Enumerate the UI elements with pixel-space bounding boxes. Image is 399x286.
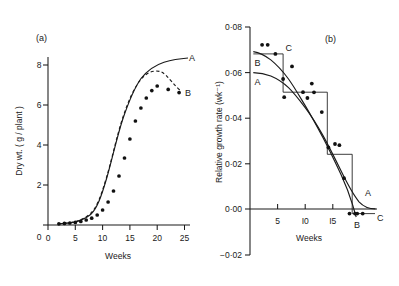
panel-a-x-ticklabels: 0 5 10 15 20 25 bbox=[46, 233, 190, 243]
panel-a-yticklabel-3: 6 bbox=[37, 100, 42, 110]
panel-a-curvelabel-A: A bbox=[189, 53, 195, 63]
panel-b-datapoints bbox=[260, 43, 364, 216]
panel-b-yticklabel-neg002: −0·02 bbox=[220, 250, 242, 260]
panel-a-xlabel: Weeks bbox=[105, 251, 131, 261]
panel-a-xticklabel-1: 5 bbox=[73, 233, 78, 243]
panel-a-xticklabel-3: 15 bbox=[125, 233, 135, 243]
panel-b-yticklabel-004: 0·04 bbox=[225, 113, 242, 123]
panel-b-plot: (b) 0·08 0·06 0·04 0·02 0·00 −0·02 bbox=[199, 0, 399, 286]
panel-a-yticklabel-1: 2 bbox=[37, 180, 42, 190]
panel-b-x-ticks bbox=[278, 204, 333, 209]
panel-a-yticklabel-4: 8 bbox=[37, 60, 42, 70]
panel-b: (b) 0·08 0·06 0·04 0·02 0·00 −0·02 bbox=[199, 0, 399, 286]
panel-b-yticklabel-008: 0·08 bbox=[225, 22, 242, 32]
panel-b-label: (b) bbox=[325, 34, 336, 44]
figure-container: (a) 0 2 4 6 8 bbox=[0, 0, 399, 286]
panel-b-yticklabel-002: 0·02 bbox=[225, 159, 242, 169]
panel-b-curvelabel-A-top: A bbox=[255, 77, 261, 87]
panel-b-curvelabel-A-right: A bbox=[365, 188, 371, 198]
panel-b-curvelabel-B-top: B bbox=[255, 58, 261, 68]
panel-b-xticklabel-5: 5 bbox=[275, 216, 280, 226]
panel-a-curve-A bbox=[59, 58, 188, 224]
panel-b-yticklabel-006: 0·06 bbox=[225, 68, 242, 78]
panel-a-yticklabel-0: 0 bbox=[37, 232, 42, 242]
panel-b-xticklabel-10: I0 bbox=[302, 216, 309, 226]
panel-a-yticklabel-2: 4 bbox=[37, 140, 42, 150]
panel-b-ylabel: Relative growth rate (wk⁻¹) bbox=[214, 81, 224, 183]
panel-a-curve-B bbox=[59, 71, 180, 224]
panel-a-y-ticklabels: 0 2 4 6 8 bbox=[37, 60, 42, 242]
panel-b-curvelabel-C-bottom: C bbox=[377, 213, 384, 223]
panel-a-xticklabel-0: 0 bbox=[46, 233, 51, 243]
panel-a-xticklabel-2: 10 bbox=[98, 233, 108, 243]
panel-b-x-ticklabels: 5 I0 I5 bbox=[275, 216, 336, 226]
panel-b-yticklabel-000: 0·00 bbox=[225, 204, 242, 214]
panel-a-xticklabel-5: 25 bbox=[180, 233, 190, 243]
panel-a-curvelabel-B: B bbox=[185, 88, 191, 98]
panel-b-xlabel: Weeks bbox=[296, 233, 322, 243]
panel-b-curvelabel-C-top: C bbox=[286, 43, 293, 53]
panel-b-curvelabel-B-bottom: B bbox=[354, 220, 360, 230]
panel-a-curves bbox=[59, 58, 188, 224]
panel-b-xticklabel-15: I5 bbox=[329, 216, 336, 226]
panel-a-x-ticks bbox=[48, 225, 185, 230]
panel-a-label: (a) bbox=[36, 33, 47, 43]
panel-a-xticklabel-4: 20 bbox=[152, 233, 162, 243]
panel-a-datapoints bbox=[57, 84, 181, 226]
panel-a-y-ticks bbox=[43, 65, 48, 225]
panel-a-plot: (a) 0 2 4 6 8 bbox=[0, 0, 200, 286]
panel-a-ylabel: Dry wt. ( g / plant ) bbox=[14, 106, 24, 176]
panel-b-y-ticks bbox=[245, 27, 250, 255]
panel-a: (a) 0 2 4 6 8 bbox=[0, 0, 200, 286]
panel-b-curve-B bbox=[253, 52, 356, 217]
panel-b-curve-C bbox=[253, 54, 375, 214]
